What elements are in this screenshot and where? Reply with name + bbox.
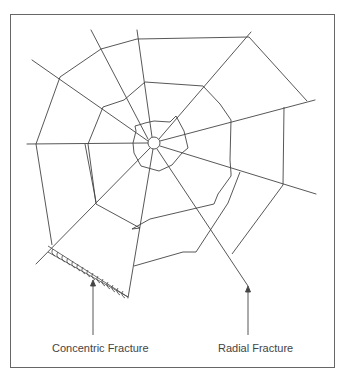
diagram-border [11, 15, 335, 368]
concentric-fracture-label: Concentric Fracture [52, 342, 149, 354]
concentric-hatch [48, 246, 128, 298]
fracture-diagram [0, 0, 348, 381]
radial-fracture-label: Radial Fracture [218, 342, 293, 354]
impact-point [148, 137, 160, 149]
concentric-fractures [36, 37, 307, 266]
